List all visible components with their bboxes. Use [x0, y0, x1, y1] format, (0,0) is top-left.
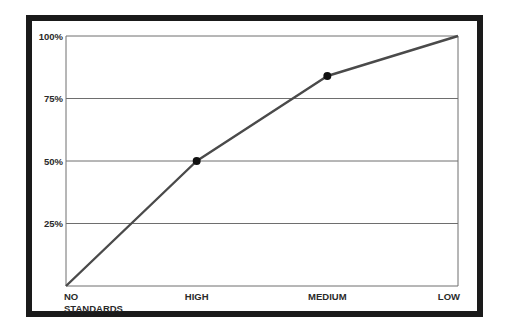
x-tick-label: HIGH [185, 291, 209, 302]
chart-canvas: 25%50%75%100% NOSTANDARDSHIGHMEDIUMLOW [0, 0, 505, 334]
y-tick-label: 50% [44, 156, 64, 167]
x-tick-label: NO [64, 291, 78, 302]
x-tick-label: LOW [438, 291, 460, 302]
y-axis-ticks: 25%50%75%100% [39, 31, 64, 230]
x-axis-ticks: NOSTANDARDSHIGHMEDIUMLOW [64, 291, 460, 314]
data-point-high [193, 157, 201, 165]
y-tick-label: 25% [44, 218, 64, 229]
grid-layer [66, 36, 458, 286]
data-point-medium [323, 72, 331, 80]
y-tick-label: 75% [44, 93, 64, 104]
x-tick-label: STANDARDS [64, 303, 123, 314]
x-tick-label: MEDIUM [308, 291, 347, 302]
y-tick-label: 100% [39, 31, 64, 42]
